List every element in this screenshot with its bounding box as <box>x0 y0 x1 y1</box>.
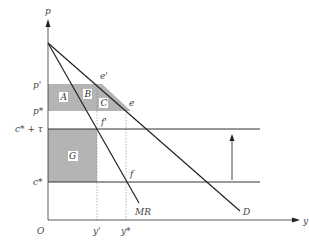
c-star-label: c* <box>33 177 43 187</box>
region-g-label: G <box>69 151 76 161</box>
f-label: f <box>129 169 135 179</box>
x-axis-label: y <box>302 216 309 226</box>
f-prime-label: f' <box>100 117 107 127</box>
y-prime-label: y' <box>92 226 101 236</box>
y-axis-label: p <box>45 6 51 16</box>
shift-arrow-head-icon <box>230 134 235 141</box>
region-b-label: B <box>84 89 92 99</box>
y-axis-arrow-icon <box>46 19 51 27</box>
demand-curve <box>48 43 240 211</box>
region-a-label: A <box>60 92 68 102</box>
origin-label: O <box>37 226 45 236</box>
p-prime-label: p' <box>33 80 41 90</box>
d-label: D <box>242 207 250 217</box>
monopoly-tariff-diagram: p y O p' p* c* + τ c* y' y* MR D e' e f'… <box>0 0 309 250</box>
region-c-label: C <box>101 98 108 108</box>
x-axis-arrow-icon <box>292 218 300 223</box>
c-tau-label: c* + τ <box>15 124 44 134</box>
p-star-label: p* <box>33 106 44 116</box>
mr-label: MR <box>134 207 151 217</box>
e-label: e <box>129 98 134 108</box>
y-star-label: y* <box>120 226 131 236</box>
e-prime-label: e' <box>100 71 108 81</box>
